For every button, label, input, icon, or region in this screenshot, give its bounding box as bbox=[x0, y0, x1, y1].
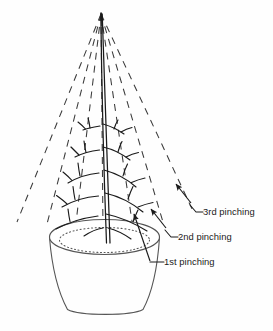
flower-pot bbox=[50, 220, 160, 315]
callout-label-second: 2nd pinching bbox=[178, 231, 232, 242]
branch-twig bbox=[121, 128, 132, 133]
branch-right bbox=[104, 170, 136, 187]
cone-guide-line-7 bbox=[101, 14, 193, 211]
branch-twig bbox=[63, 172, 72, 181]
pruning-diagram-svg: 3rd pinching2nd pinching1st pinching bbox=[0, 0, 273, 331]
plant-central-leader bbox=[101, 13, 110, 243]
callout-label-third: 3rd pinching bbox=[203, 206, 255, 217]
branch-twig bbox=[84, 141, 86, 153]
branch-twig bbox=[78, 122, 86, 129]
callout-third: 3rd pinching bbox=[176, 184, 255, 217]
callout-arrow-second bbox=[151, 209, 166, 228]
branch-twig bbox=[57, 196, 68, 205]
branch-twig bbox=[73, 187, 75, 200]
cone-guide-line-6 bbox=[101, 14, 163, 222]
branch-twig bbox=[126, 153, 139, 158]
callout-group: 3rd pinching2nd pinching1st pinching bbox=[134, 184, 255, 267]
branch-twig bbox=[133, 210, 138, 222]
branch-left bbox=[62, 196, 99, 207]
branch-left bbox=[68, 173, 99, 183]
branch-twig bbox=[78, 163, 80, 176]
figure-canvas: 3rd pinching2nd pinching1st pinching bbox=[0, 0, 273, 331]
branch-twig bbox=[128, 187, 133, 200]
branch-right bbox=[105, 193, 143, 212]
branch-twig bbox=[138, 203, 153, 208]
branch-twig bbox=[68, 209, 70, 222]
callout-label-first: 1st pinching bbox=[164, 256, 215, 267]
cone-guide-line-2 bbox=[46, 14, 101, 228]
branch-left bbox=[75, 150, 100, 157]
branch-twig bbox=[71, 147, 79, 155]
branch-twig bbox=[114, 120, 118, 129]
branch-twig bbox=[132, 178, 146, 183]
callout-arrow-third bbox=[176, 184, 191, 203]
callout-leader-line-second bbox=[165, 230, 178, 237]
